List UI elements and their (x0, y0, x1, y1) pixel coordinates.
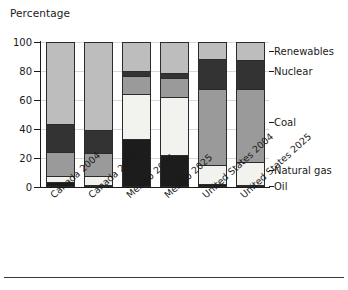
legend-label-oil[interactable]: Oil (274, 180, 287, 191)
bar-segment-coal (161, 78, 188, 97)
bar-segment-renewables (199, 43, 226, 59)
legend-tick (269, 186, 274, 187)
bar-segment-renewables (123, 43, 150, 71)
segment-divider (161, 78, 188, 79)
segment-divider (47, 124, 74, 125)
y-axis-labels: 020406080100 (0, 0, 32, 290)
segment-divider (199, 89, 226, 90)
bar-canada-2004[interactable] (46, 42, 75, 187)
bar-segment-coal (123, 76, 150, 93)
y-axis-tick (34, 158, 40, 159)
segment-divider (123, 94, 150, 95)
bar-segment-nuclear (47, 124, 74, 152)
bar-segment-renewables (237, 43, 264, 60)
segment-divider (123, 71, 150, 72)
bar-segment-nuclear (237, 60, 264, 89)
legend-label-renewables[interactable]: Renewables (274, 45, 334, 56)
y-axis-tick-label: 40 (2, 124, 32, 135)
segment-divider (161, 73, 188, 74)
legend-label-nuclear[interactable]: Nuclear (274, 66, 313, 77)
y-axis-tick-label: 20 (2, 153, 32, 164)
segment-divider (237, 89, 264, 90)
y-axis-tick (34, 71, 40, 72)
y-axis-tick (34, 100, 40, 101)
bar-segment-nuclear (85, 130, 112, 153)
bar-segment-nuclear (199, 59, 226, 89)
y-axis-tick-label: 60 (2, 95, 32, 106)
bar-segment-coal (199, 89, 226, 164)
y-axis-line (40, 41, 41, 188)
y-axis-tick (34, 42, 40, 43)
segment-divider (47, 152, 74, 153)
y-axis-tick-label: 80 (2, 66, 32, 77)
bar-segment-renewables (161, 43, 188, 73)
footer-divider (4, 277, 344, 278)
legend-label-coal[interactable]: Coal (274, 116, 296, 127)
bar-segment-renewables (47, 43, 74, 124)
y-axis-tick (34, 187, 40, 188)
y-axis-tick-label: 0 (2, 182, 32, 193)
x-axis-line (40, 187, 270, 188)
segment-divider (161, 97, 188, 98)
segment-divider (123, 76, 150, 77)
segment-divider (237, 60, 264, 61)
stacked-bar-chart: Percentage 020406080100 Canada 2004Canad… (0, 0, 348, 290)
legend-tick (269, 51, 274, 52)
legend-tick (269, 122, 274, 123)
segment-divider (199, 59, 226, 60)
y-axis-tick-label: 100 (2, 37, 32, 48)
legend-tick (269, 170, 274, 171)
legend-tick (269, 71, 274, 72)
bar-segment-renewables (85, 43, 112, 130)
y-axis-tick (34, 129, 40, 130)
bar-segment-natural-gas (161, 97, 188, 155)
legend-label-natural-gas[interactable]: Natural gas (274, 164, 332, 175)
segment-divider (123, 139, 150, 140)
segment-divider (85, 130, 112, 131)
bar-segment-natural-gas (123, 94, 150, 139)
